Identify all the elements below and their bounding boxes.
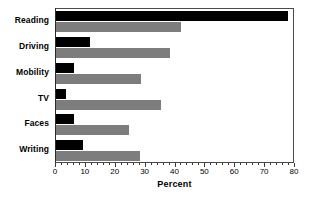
x-tick-minor (186, 163, 187, 165)
bar-gray (56, 125, 129, 135)
x-tick-minor (216, 163, 217, 165)
x-tick-minor (151, 163, 152, 165)
x-tick-minor (91, 163, 92, 165)
x-tick-minor (192, 163, 193, 165)
bar-gray (56, 48, 170, 58)
x-tick-minor (67, 163, 68, 165)
x-tick-minor (79, 163, 80, 165)
bar-group (56, 89, 293, 111)
category-label: Driving (0, 41, 49, 51)
bar-black (56, 140, 83, 150)
x-tick-minor (252, 163, 253, 165)
x-tick-minor (222, 163, 223, 165)
bar-black (56, 37, 90, 47)
x-tick-minor (157, 163, 158, 165)
plot-area (55, 8, 294, 163)
x-tick-minor (198, 163, 199, 165)
x-tick-label: 70 (252, 167, 276, 177)
x-tick-minor (288, 163, 289, 165)
x-tick-minor (103, 163, 104, 165)
x-tick-minor (97, 163, 98, 165)
x-tick-minor (276, 163, 277, 165)
x-tick-label: 40 (163, 167, 187, 177)
x-tick-label: 10 (73, 167, 97, 177)
x-tick-minor (180, 163, 181, 165)
x-tick-label: 60 (222, 167, 246, 177)
x-tick-label: 50 (192, 167, 216, 177)
bar-gray (56, 151, 140, 161)
x-tick-minor (127, 163, 128, 165)
x-tick-minor (228, 163, 229, 165)
bar-group (56, 37, 293, 59)
x-tick-minor (210, 163, 211, 165)
x-tick-label: 80 (282, 167, 306, 177)
bar-black (56, 11, 288, 21)
x-axis-title: Percent (55, 179, 294, 189)
x-tick-minor (240, 163, 241, 165)
x-tick-minor (258, 163, 259, 165)
bar-group (56, 114, 293, 136)
x-tick-minor (133, 163, 134, 165)
x-tick-minor (270, 163, 271, 165)
x-tick-minor (121, 163, 122, 165)
bar-gray (56, 22, 181, 32)
bar-black (56, 114, 74, 124)
bar-group (56, 11, 293, 33)
x-tick-label: 0 (43, 167, 67, 177)
x-tick-minor (73, 163, 74, 165)
x-tick-minor (109, 163, 110, 165)
category-label: Faces (0, 118, 49, 128)
category-label: Reading (0, 15, 49, 25)
x-tick-minor (61, 163, 62, 165)
x-tick-label: 20 (103, 167, 127, 177)
x-tick-minor (139, 163, 140, 165)
x-tick-minor (169, 163, 170, 165)
bar-chart: ReadingDrivingMobilityTVFacesWriting 010… (0, 0, 312, 197)
category-label: Mobility (0, 67, 49, 77)
x-tick-minor (282, 163, 283, 165)
category-label: TV (0, 93, 49, 103)
x-tick-minor (163, 163, 164, 165)
x-axis: 01020304050607080 (55, 163, 294, 179)
x-tick-minor (246, 163, 247, 165)
bar-gray (56, 74, 141, 84)
bar-black (56, 63, 74, 73)
bar-gray (56, 100, 161, 110)
category-label: Writing (0, 144, 49, 154)
bar-black (56, 89, 66, 99)
bar-group (56, 63, 293, 85)
bar-group (56, 140, 293, 162)
x-tick-label: 30 (133, 167, 157, 177)
